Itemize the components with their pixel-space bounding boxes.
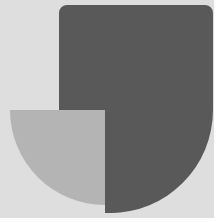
geometric-artwork: Abstract geometric logo mark: [0, 0, 218, 222]
artboard: Abstract geometric logo mark: [0, 0, 218, 222]
artwork-plate: [0, 0, 214, 218]
